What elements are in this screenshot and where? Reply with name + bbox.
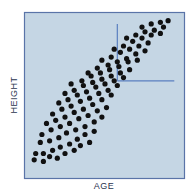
data-point (135, 58, 140, 63)
data-point (112, 78, 117, 83)
data-point (139, 25, 144, 30)
data-point (107, 67, 112, 72)
data-point (62, 115, 67, 120)
data-point (84, 89, 89, 94)
data-point (72, 110, 77, 115)
data-point (142, 29, 147, 34)
data-point (59, 107, 64, 112)
data-point (62, 151, 67, 156)
data-point (142, 48, 147, 53)
data-point (99, 58, 104, 63)
data-point (121, 75, 126, 80)
data-point (67, 141, 72, 146)
data-point (166, 18, 171, 23)
data-point (95, 108, 100, 113)
data-point (73, 127, 78, 132)
plot-area (25, 13, 185, 179)
data-point (81, 107, 86, 112)
data-point (62, 91, 67, 96)
data-point (109, 55, 114, 60)
data-point (124, 36, 129, 41)
data-point (58, 124, 63, 129)
data-point (109, 92, 114, 97)
data-point (58, 145, 63, 150)
data-point (99, 97, 104, 102)
data-point (127, 67, 132, 72)
data-point (115, 83, 120, 88)
data-point (118, 70, 123, 75)
data-point (47, 154, 52, 159)
data-point (72, 88, 77, 93)
data-point (133, 32, 138, 37)
data-point (75, 92, 80, 97)
data-point (106, 88, 111, 93)
data-point (72, 148, 77, 153)
data-point (67, 121, 72, 126)
data-point (41, 159, 46, 164)
x-axis-label: AGE (94, 181, 115, 191)
y-axis-label: HEIGHT (9, 76, 19, 113)
data-point (47, 138, 52, 143)
data-point (92, 129, 97, 134)
data-point (95, 66, 100, 71)
data-point (161, 25, 166, 30)
data-point (69, 104, 74, 109)
data-point (118, 50, 123, 55)
data-point (158, 20, 163, 25)
data-point (158, 31, 163, 36)
data-point (87, 96, 92, 101)
data-point (99, 77, 104, 82)
data-point (102, 81, 107, 86)
data-point (115, 59, 120, 64)
data-point (39, 132, 44, 137)
data-point (90, 102, 95, 107)
data-point (133, 51, 138, 56)
data-point (104, 105, 109, 110)
data-point (112, 47, 117, 52)
data-point (98, 70, 103, 75)
data-point (78, 143, 83, 148)
data-point (99, 115, 104, 120)
data-point (81, 83, 86, 88)
data-point (32, 157, 37, 162)
data-point (96, 91, 101, 96)
data-point (75, 137, 80, 142)
data-point (55, 156, 60, 161)
data-point (109, 73, 114, 78)
data-point (136, 43, 141, 48)
data-point (64, 130, 69, 135)
data-point (139, 36, 144, 41)
data-point (87, 140, 92, 145)
data-point (78, 99, 83, 104)
data-point (65, 97, 70, 102)
data-point (41, 151, 46, 156)
data-point (38, 140, 43, 145)
data-point (86, 70, 91, 75)
data-point (146, 40, 151, 45)
data-point (56, 135, 61, 140)
data-point (93, 85, 98, 90)
data-point (50, 148, 55, 153)
data-point (92, 119, 97, 124)
data-point (33, 151, 38, 156)
data-point (121, 43, 126, 48)
data-point (130, 39, 135, 44)
data-point (50, 111, 55, 116)
data-point (69, 81, 74, 86)
data-point (124, 56, 129, 61)
data-point (56, 100, 61, 105)
data-point (90, 80, 95, 85)
data-point (53, 118, 58, 123)
data-point (82, 132, 87, 137)
data-point (152, 28, 157, 33)
scatter-plot (0, 0, 196, 195)
data-point (127, 47, 132, 52)
data-point (86, 113, 91, 118)
data-point (82, 124, 87, 129)
data-point (79, 78, 84, 83)
data-point (149, 32, 154, 37)
data-point (149, 21, 154, 26)
data-point (116, 64, 121, 69)
data-point (106, 62, 111, 67)
data-point (44, 121, 49, 126)
